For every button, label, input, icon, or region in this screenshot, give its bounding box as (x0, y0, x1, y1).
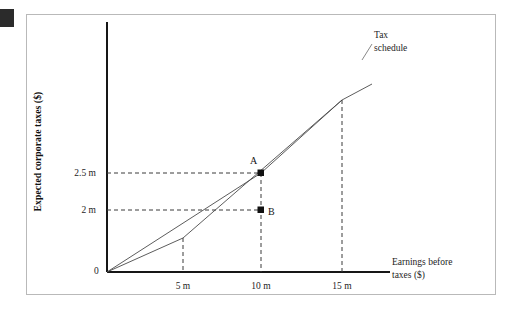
x-tick-label-15m: 15 m (322, 280, 362, 292)
data-point-a-label: A (250, 155, 257, 166)
x-axis-title-line-2: taxes ($) (392, 269, 492, 282)
x-axis-title-line-1: Earnings before (392, 256, 492, 269)
expected-tax-chord (107, 100, 342, 272)
x-tick-label-5m: 5 m (163, 280, 203, 292)
data-point-b-marker (258, 207, 265, 214)
data-point-a-marker (258, 170, 265, 177)
y-axis-title: Expected corporate taxes ($) (32, 67, 43, 237)
data-point-b-label: B (268, 206, 275, 217)
tax-schedule-callout-line-1: Tax (374, 29, 444, 42)
x-axis-title: Earnings before taxes ($) (392, 256, 492, 282)
tax-schedule-callout-line-2: schedule (374, 42, 444, 55)
origin-label: 0 (94, 265, 99, 277)
tax-schedule-callout: Tax schedule (374, 29, 444, 55)
x-tick-label-10m: 10 m (241, 280, 281, 292)
y-tick-label-2p5m: 2.5 m (50, 167, 96, 179)
y-tick-label-2m: 2 m (50, 204, 96, 216)
tax-schedule-leader-line (362, 44, 372, 60)
tax-schedule-curve (107, 84, 372, 272)
figure-container: Expected corporate taxes ($) 2.5 m 2 m 0… (0, 0, 517, 315)
